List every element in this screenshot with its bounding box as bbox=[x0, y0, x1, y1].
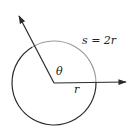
arc-length-label: s = 2r bbox=[82, 34, 117, 47]
terminal-ray-arrow bbox=[19, 16, 54, 83]
arc-length-s bbox=[32, 41, 96, 83]
angle-theta-label: θ bbox=[56, 65, 63, 78]
initial-ray-arrow bbox=[54, 82, 126, 83]
radian-diagram: s = 2r θ r bbox=[0, 0, 133, 137]
circle-major-arc bbox=[12, 47, 96, 125]
radius-label: r bbox=[74, 83, 80, 96]
